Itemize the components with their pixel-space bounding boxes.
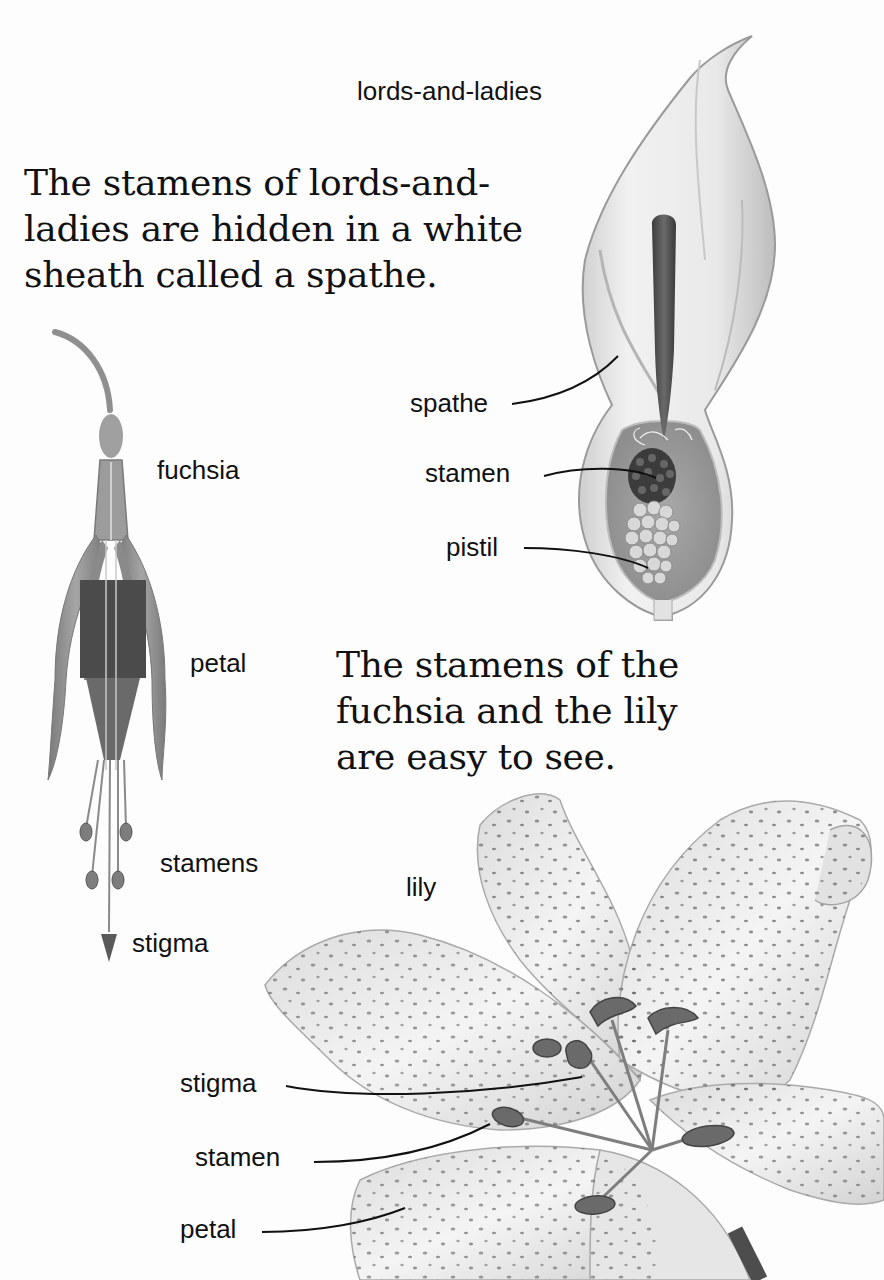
fuchsia-stamens-label: stamens (160, 848, 258, 879)
fuchsia-title: fuchsia (157, 455, 239, 486)
pistil-label: pistil (446, 532, 498, 563)
lily-stigma-label: stigma (180, 1068, 257, 1099)
paragraph-line: The stamens of lords-and- (24, 160, 523, 206)
lords-and-ladies-paragraph: The stamens of lords-and- ladies are hid… (24, 160, 523, 298)
lords-and-ladies-title: lords-and-ladies (357, 76, 542, 107)
paragraph-line: ladies are hidden in a white (24, 206, 523, 252)
lords-stamen-label: stamen (425, 458, 510, 489)
lily-stamen-label: stamen (195, 1142, 280, 1173)
fuchsia-petal-block (80, 580, 146, 678)
fuchsia-petal-label: petal (190, 648, 246, 679)
lily-title: lily (406, 872, 436, 903)
lily-illustration (262, 794, 884, 1280)
fuchsia-lily-paragraph: The stamens of the fuchsia and the lily … (336, 642, 679, 780)
fuchsia-stigma-label: stigma (132, 928, 209, 959)
paragraph-line: fuchsia and the lily (336, 688, 679, 734)
spathe-label: spathe (410, 388, 488, 419)
book-page: The stamens of lords-and- ladies are hid… (0, 0, 884, 1280)
lords-and-ladies-illustration (512, 36, 775, 620)
paragraph-line: are easy to see. (336, 734, 679, 780)
paragraph-line: The stamens of the (336, 642, 679, 688)
paragraph-line: sheath called a spathe. (24, 252, 523, 298)
fuchsia-illustration (48, 332, 166, 962)
lily-petal-label: petal (180, 1214, 236, 1245)
